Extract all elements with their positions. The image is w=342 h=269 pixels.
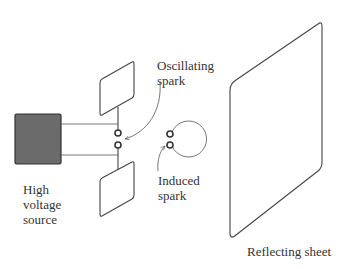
induced-spark-label-line1: Induced [158,173,200,188]
oscillating-spark-label-line2: spark [157,73,186,88]
oscillating-spark-ball-bottom [115,142,121,148]
induced-spark-label-line2: spark [158,188,187,203]
induced-spark-ball-bottom [167,142,173,148]
induced-loop-wire [172,121,207,157]
source-label-line1: High [23,182,50,197]
induced-spark-arrow [158,146,165,171]
oscillating-spark-label-line1: Oscillating [157,58,215,73]
reflecting-sheet [230,23,322,237]
high-voltage-source-box [15,114,61,164]
reflector-label: Reflecting sheet [247,244,331,259]
upper-plate [100,62,134,116]
source-label-line2: voltage [23,197,61,212]
source-label-line3: source [23,212,57,227]
lower-plate [100,162,134,217]
induced-spark-ball-top [167,131,173,137]
oscillating-spark-arrow [125,82,160,139]
hertz-apparatus-diagram: Oscillating spark Induced spark High vol… [0,0,342,269]
oscillating-spark-ball-top [115,130,121,136]
